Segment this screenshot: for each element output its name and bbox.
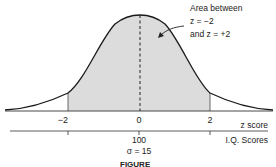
z-axis-label: z score (241, 120, 269, 130)
figure-caption-partial: FIGURE (120, 160, 151, 167)
annotation-line-2: z = −2 (190, 16, 214, 26)
z-tick-0: 0 (136, 115, 141, 125)
normal-curve-chart: −2 0 2 z score 100 I.Q. Scores σ = 15 FI… (0, 0, 276, 167)
z-tick-2: 2 (207, 115, 212, 125)
z-tick-minus2: −2 (58, 115, 68, 125)
annotation-line-3: and z = +2 (190, 29, 230, 39)
iq-axis-label: I.Q. Scores (225, 135, 268, 145)
sigma-label: σ = 15 (127, 146, 152, 156)
iq-tick-100: 100 (132, 135, 146, 145)
annotation-line-1: Area between (190, 3, 243, 13)
